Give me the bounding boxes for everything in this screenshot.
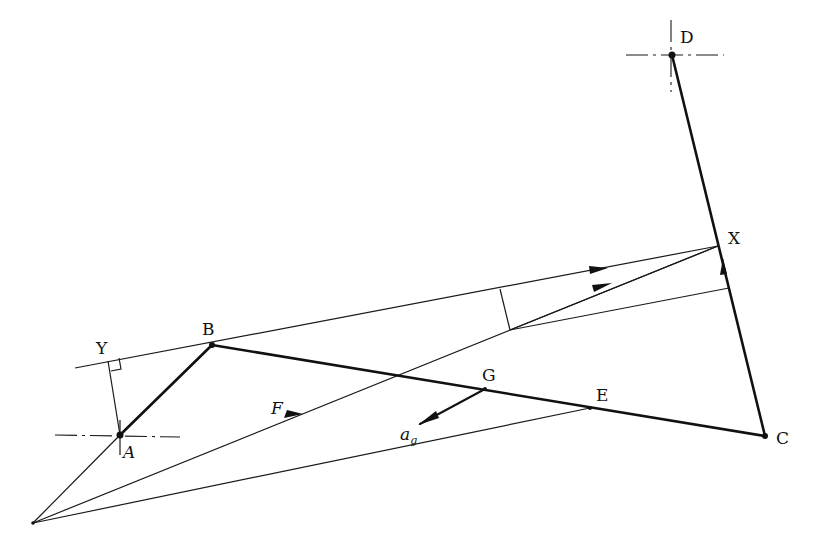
- point-labels: A B C D X Y G E F ag: [95, 27, 789, 462]
- line-mid-to-rocker: [510, 288, 729, 330]
- line-perpendicular-mid: [500, 289, 510, 330]
- joint-a: [117, 432, 124, 439]
- label-y: Y: [95, 338, 108, 358]
- accel-vector-ag: [418, 389, 485, 425]
- link-ab: [120, 345, 212, 435]
- line-mid-to-x: [510, 246, 718, 330]
- point-e: [588, 406, 592, 410]
- joint-c: [762, 433, 768, 439]
- label-accel-ag: ag: [400, 424, 417, 447]
- label-force-f: F: [270, 398, 284, 418]
- label-b: B: [202, 319, 215, 339]
- label-a: A: [121, 442, 135, 462]
- joint-b: [209, 342, 215, 348]
- label-x: X: [728, 228, 741, 248]
- mechanism-diagram: A B C D X Y G E F ag: [0, 0, 814, 540]
- mechanism-links: [120, 55, 765, 436]
- joints: [31, 52, 768, 525]
- construction-lines: [33, 246, 729, 523]
- label-e: E: [596, 385, 608, 405]
- line-o-a: [33, 435, 120, 523]
- link-cd: [672, 55, 765, 436]
- arrow-f-icon: [284, 410, 303, 418]
- arrow-ag-icon: [418, 411, 439, 425]
- line-a-y-perpendicular: [108, 361, 120, 435]
- line-y-x: [75, 246, 718, 368]
- point-o: [31, 521, 35, 525]
- point-g: [483, 387, 487, 391]
- link-bc: [212, 345, 765, 436]
- line-o-e: [33, 408, 590, 523]
- joint-d: [669, 52, 676, 59]
- label-d: D: [680, 27, 694, 47]
- label-c: C: [776, 428, 789, 448]
- label-g: G: [482, 365, 496, 385]
